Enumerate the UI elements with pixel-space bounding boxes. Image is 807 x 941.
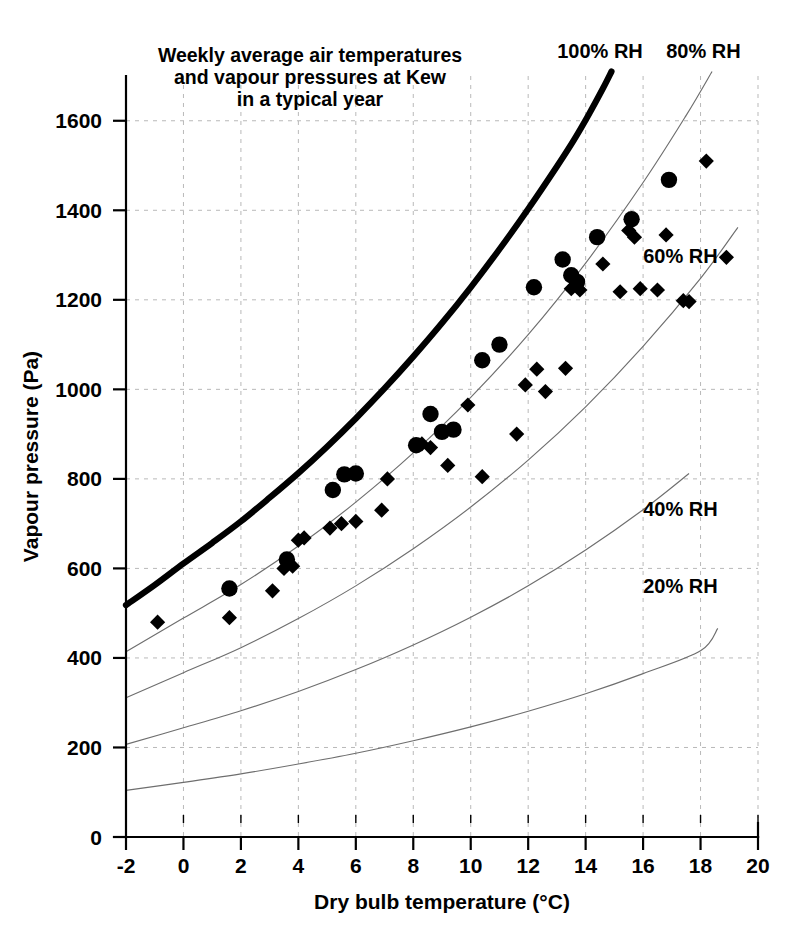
data-point-circle: [445, 421, 461, 437]
x-tick-label: 2: [235, 854, 247, 877]
data-point-diamond: [440, 458, 455, 473]
y-tick-label: 1600: [55, 109, 102, 132]
x-tick-label: 0: [178, 854, 190, 877]
x-tick-label: 14: [574, 854, 598, 877]
x-tick-label: 12: [517, 854, 540, 877]
rh-label-20: 20% RH: [643, 575, 717, 597]
data-point-circle: [554, 251, 570, 267]
data-point-diamond: [595, 256, 610, 271]
data-point-diamond: [460, 397, 475, 412]
data-point-diamond: [475, 469, 490, 484]
rh-curve-20: [126, 628, 718, 790]
x-tick-label: 16: [631, 854, 654, 877]
y-tick-label: 1200: [55, 288, 102, 311]
x-tick-label: 6: [350, 854, 362, 877]
tick-labels: 02004006008001000120014001600-2024681012…: [55, 109, 769, 877]
data-point-diamond: [650, 282, 665, 297]
rh-curve-60: [126, 227, 738, 697]
data-point-diamond: [509, 427, 524, 442]
data-point-circle: [325, 482, 341, 498]
data-point-diamond: [658, 227, 673, 242]
rh-label-80: 80% RH: [666, 40, 740, 62]
chart-title-line: and vapour pressures at Kew: [174, 66, 447, 88]
y-tick-label: 400: [67, 646, 102, 669]
data-point-circle: [589, 229, 605, 245]
chart-canvas: 02004006008001000120014001600-2024681012…: [0, 0, 807, 941]
data-point-circle: [474, 352, 490, 368]
data-point-circle: [491, 336, 507, 352]
rh-curves: [126, 72, 738, 791]
grid-lines: [126, 76, 758, 837]
data-point-diamond: [380, 471, 395, 486]
rh-label-100: 100% RH: [557, 40, 643, 62]
x-tick-label: 8: [407, 854, 419, 877]
y-tick-label: 800: [67, 467, 102, 490]
data-markers: [150, 153, 734, 629]
x-tick-label: -2: [117, 854, 136, 877]
rh-curve-100: [126, 72, 611, 606]
y-tick-label: 0: [90, 826, 102, 849]
data-point-diamond: [265, 583, 280, 598]
x-axis-title: Dry bulb temperature (°C): [314, 890, 570, 913]
x-tick-label: 20: [746, 854, 769, 877]
vapour-pressure-chart: 02004006008001000120014001600-2024681012…: [0, 0, 807, 941]
chart-title-line: Weekly average air temperatures: [158, 44, 462, 66]
y-tick-label: 1400: [55, 199, 102, 222]
y-axis-title: Vapour pressure (Pa): [19, 351, 42, 562]
data-point-diamond: [518, 377, 533, 392]
data-point-circle: [422, 406, 438, 422]
rh-curve-40: [126, 474, 689, 745]
axes: [113, 76, 758, 850]
data-point-diamond: [150, 615, 165, 630]
data-point-diamond: [529, 362, 544, 377]
y-tick-label: 600: [67, 557, 102, 580]
data-point-diamond: [538, 384, 553, 399]
data-point-diamond: [348, 514, 363, 529]
data-point-diamond: [222, 610, 237, 625]
data-point-diamond: [613, 284, 628, 299]
data-point-diamond: [558, 361, 573, 376]
x-tick-label: 18: [689, 854, 713, 877]
rh-curve-80: [126, 72, 712, 652]
chart-title: Weekly average air temperaturesand vapou…: [158, 44, 462, 110]
chart-title-line: in a typical year: [237, 88, 384, 110]
rh-label-60: 60% RH: [643, 245, 717, 267]
data-point-circle: [221, 580, 237, 596]
x-tick-label: 10: [459, 854, 482, 877]
data-point-diamond: [633, 281, 648, 296]
data-point-circle: [526, 279, 542, 295]
data-point-circle: [348, 465, 364, 481]
data-point-diamond: [374, 503, 389, 518]
x-tick-label: 4: [293, 854, 305, 877]
data-point-diamond: [719, 250, 734, 265]
y-tick-label: 200: [67, 736, 102, 759]
rh-label-40: 40% RH: [643, 498, 717, 520]
data-point-circle: [623, 211, 639, 227]
y-tick-label: 1000: [55, 378, 102, 401]
data-point-circle: [661, 172, 677, 188]
